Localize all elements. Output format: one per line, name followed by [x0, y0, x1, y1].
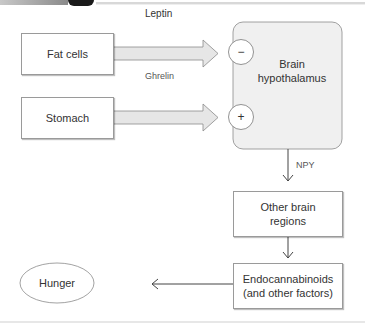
brain-label-line2: hypothalamus — [248, 71, 336, 85]
other-brain-regions-node: Other brain regions — [233, 191, 343, 237]
brain-label-line1: Brain — [248, 57, 336, 71]
other-label-line1: Other brain — [260, 200, 315, 214]
leptin-arrow — [113, 40, 218, 67]
other-label-line2: regions — [270, 214, 306, 228]
stomach-node: Stomach — [21, 97, 114, 139]
npy-label: NPY — [296, 160, 315, 170]
brain-hypothalamus-label: Brain hypothalamus — [248, 57, 336, 85]
endo-label-line1: Endocannabinoids — [243, 272, 334, 286]
hunger-label: Hunger — [20, 276, 94, 290]
leptin-label: Leptin — [145, 8, 172, 19]
ghrelin-arrow — [113, 104, 218, 131]
stomach-label: Stomach — [46, 111, 89, 125]
endocannabinoids-node: Endocannabinoids (and other factors) — [233, 263, 343, 309]
fat-cells-label: Fat cells — [47, 47, 88, 61]
endo-label-line2: (and other factors) — [243, 286, 333, 300]
ghrelin-label: Ghrelin — [145, 71, 174, 81]
brain-box — [233, 22, 342, 149]
excite-sign: + — [229, 110, 253, 124]
inhibit-sign: − — [229, 45, 253, 59]
fat-cells-node: Fat cells — [21, 33, 114, 75]
